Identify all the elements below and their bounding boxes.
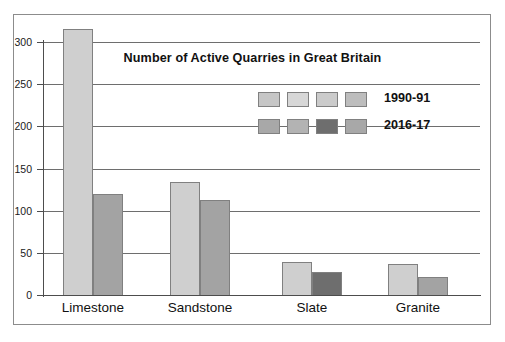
x-tick-label-sandstone: Sandstone [150, 301, 250, 316]
y-tick-label-200: 200 [2, 121, 32, 132]
x-tick-label-limestone: Limestone [43, 301, 143, 316]
legend-swatches-1990-91 [258, 92, 367, 107]
y-tick-200 [37, 126, 44, 127]
bar-limestone-1990-91 [63, 29, 93, 296]
legend-swatch-2016-17-4 [345, 119, 367, 134]
chart-figure: 300 250 200 150 100 50 0 Number of Activ… [0, 0, 505, 342]
legend-label-2016-17: 2016-17 [384, 118, 430, 132]
y-tick-50 [37, 253, 44, 254]
x-axis-line [44, 295, 481, 296]
y-tick-300 [37, 42, 44, 43]
bar-sandstone-2016-17 [200, 200, 230, 296]
y-tick-label-250: 250 [2, 79, 32, 90]
bar-sandstone-1990-91 [170, 182, 200, 296]
gridline-300 [44, 42, 480, 43]
legend-swatch-1990-91-1 [258, 92, 280, 107]
y-tick-150 [37, 169, 44, 170]
y-tick-0 [37, 295, 44, 296]
y-tick-100 [37, 211, 44, 212]
y-tick-label-100: 100 [2, 206, 32, 217]
legend-row-2016-17: 2016-17 [258, 115, 438, 142]
bar-granite-1990-91 [388, 264, 418, 296]
bar-limestone-2016-17 [93, 194, 123, 296]
y-tick-label-0: 0 [2, 290, 32, 301]
legend-swatch-1990-91-3 [316, 92, 338, 107]
y-tick-250 [37, 84, 44, 85]
y-tick-label-300: 300 [2, 37, 32, 48]
x-tick-label-granite: Granite [368, 301, 468, 316]
legend-swatches-2016-17 [258, 119, 367, 134]
gridline-250 [44, 84, 480, 85]
chart-legend: 1990-91 2016-17 [258, 88, 438, 142]
legend-swatch-1990-91-2 [287, 92, 309, 107]
legend-swatch-2016-17-3 [316, 119, 338, 134]
x-tick-label-slate: Slate [262, 301, 362, 316]
y-tick-label-150: 150 [2, 164, 32, 175]
legend-row-1990-91: 1990-91 [258, 88, 438, 115]
bar-granite-2016-17 [418, 277, 448, 296]
bar-slate-2016-17 [312, 272, 342, 296]
gridline-150 [44, 169, 480, 170]
y-tick-label-50: 50 [2, 248, 32, 259]
legend-swatch-2016-17-1 [258, 119, 280, 134]
legend-label-1990-91: 1990-91 [384, 91, 430, 105]
chart-title: Number of Active Quarries in Great Brita… [0, 51, 505, 65]
legend-swatch-2016-17-2 [287, 119, 309, 134]
bar-slate-1990-91 [282, 262, 312, 296]
legend-swatch-1990-91-4 [345, 92, 367, 107]
